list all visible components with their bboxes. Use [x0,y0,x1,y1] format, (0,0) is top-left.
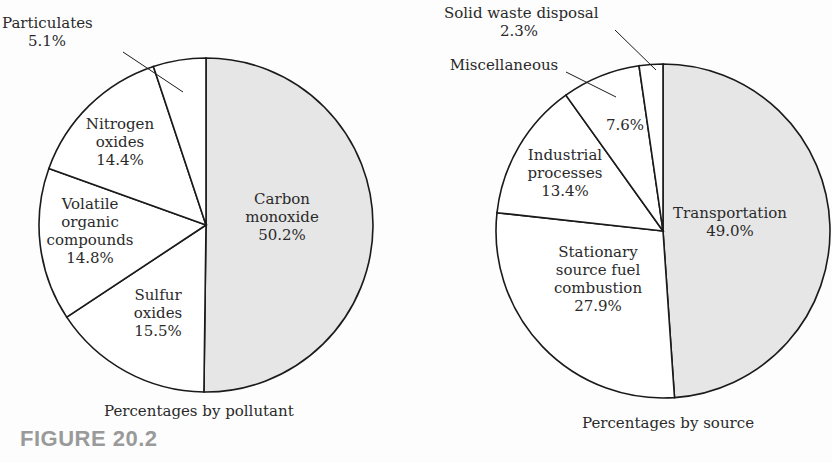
caption-by-source: Percentages by source [582,414,754,432]
label-carbon-monoxide: Carbon monoxide 50.2% [232,190,332,244]
label-industrial-processes: Industrial processes 13.4% [520,146,610,200]
caption-by-pollutant: Percentages by pollutant [104,402,294,420]
label-volatile-organic-compounds: Volatile organic compounds 14.8% [40,195,140,267]
label-particulates: Particulates 5.1% [2,14,92,50]
label-miscellaneous-pct: 7.6% [600,116,650,134]
figure-label: FIGURE 20.2 [20,426,158,452]
label-miscellaneous: Miscellaneous [444,56,564,74]
label-nitrogen-oxides: Nitrogen oxides 14.4% [80,115,160,169]
leader-line [615,30,656,70]
label-stationary-source-fuel-combustion: Stationary source fuel combustion 27.9% [543,243,653,315]
label-sulfur-oxides: Sulfur oxides 15.5% [118,286,198,340]
label-transportation: Transportation 49.0% [670,204,790,240]
label-solid-waste-disposal: Solid waste disposal 2.3% [444,4,594,40]
